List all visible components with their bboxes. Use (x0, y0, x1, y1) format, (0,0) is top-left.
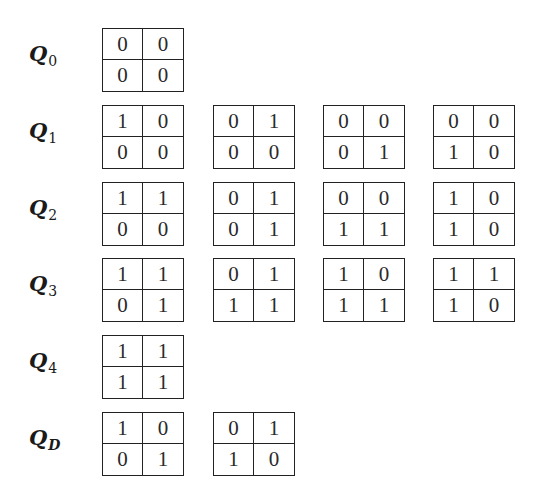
grid-cell: 0 (324, 106, 364, 137)
grid-cell: 1 (254, 183, 294, 214)
row-label: Q2 (29, 194, 57, 229)
row-label: QD (29, 424, 60, 459)
row-label-subscript: 4 (48, 360, 57, 376)
grid-cell: 0 (143, 413, 183, 444)
grid-cell: 0 (214, 413, 254, 444)
grid-cell: 0 (143, 29, 183, 60)
grid-cell: 1 (254, 413, 294, 444)
grid-cell: 0 (474, 183, 514, 214)
grid-cell: 1 (103, 336, 143, 367)
binary-grid: 0011 (323, 182, 405, 246)
row-q0: Q00000 (0, 28, 544, 94)
grid-cell: 0 (434, 106, 474, 137)
row-label-symbol: Q (29, 118, 47, 143)
grid-cell: 1 (103, 183, 143, 214)
grid-cell: 0 (103, 444, 143, 475)
grid-cell: 1 (103, 413, 143, 444)
binary-grid: 1010 (433, 182, 515, 246)
grid-cell: 0 (214, 259, 254, 290)
grid-cell: 1 (254, 290, 294, 321)
row-label-symbol: Q (29, 425, 47, 450)
grid-cell: 1 (254, 259, 294, 290)
grid-cell: 0 (214, 106, 254, 137)
binary-grid: 1110 (433, 258, 515, 322)
binary-grid: 0101 (213, 182, 295, 246)
row-label-subscript: 1 (48, 130, 57, 146)
grid-cell: 0 (103, 214, 143, 245)
row-label: Q0 (29, 40, 57, 75)
row-label-subscript: 2 (48, 207, 57, 223)
row-q4: Q41111 (0, 335, 544, 401)
grid-cell: 0 (143, 106, 183, 137)
grid-cell: 0 (103, 29, 143, 60)
grid-cell: 1 (434, 259, 474, 290)
grid-cell: 1 (364, 290, 404, 321)
grid-cell: 0 (143, 60, 183, 91)
grid-cell: 1 (254, 106, 294, 137)
grid-cell: 1 (143, 259, 183, 290)
grid-cell: 0 (364, 183, 404, 214)
binary-grid: 0111 (213, 258, 295, 322)
row-label-symbol: Q (29, 195, 47, 220)
grid-cell: 1 (143, 336, 183, 367)
grid-cell: 1 (324, 290, 364, 321)
grid-cell: 1 (434, 183, 474, 214)
row-label: Q1 (29, 117, 57, 152)
grid-cell: 1 (434, 290, 474, 321)
grid-cell: 1 (434, 137, 474, 168)
row-label-subscript: 3 (48, 283, 57, 299)
grid-cell: 1 (474, 259, 514, 290)
grid-cell: 0 (474, 137, 514, 168)
grid-cell: 0 (254, 137, 294, 168)
binary-grid: 1011 (323, 258, 405, 322)
grid-cell: 1 (103, 259, 143, 290)
grid-cell: 1 (364, 214, 404, 245)
binary-grid: 0001 (323, 105, 405, 169)
row-label-symbol: Q (29, 271, 47, 296)
grid-cell: 0 (214, 137, 254, 168)
row-qd: QD10010110 (0, 412, 544, 478)
row-label-symbol: Q (29, 348, 47, 373)
grid-cell: 0 (143, 214, 183, 245)
row-q3: Q31101011110111110 (0, 258, 544, 324)
grid-cell: 1 (324, 259, 364, 290)
binary-grid: 1111 (102, 335, 184, 399)
binary-grid: 1101 (102, 258, 184, 322)
row-label: Q4 (29, 347, 57, 382)
grid-cell: 0 (143, 137, 183, 168)
row-label-subscript: D (48, 437, 60, 453)
binary-grid: 1001 (102, 412, 184, 476)
binary-grid: 1100 (102, 182, 184, 246)
grid-cell: 1 (214, 290, 254, 321)
grid-cell: 1 (143, 290, 183, 321)
grid-cell: 0 (214, 183, 254, 214)
row-label-symbol: Q (29, 41, 47, 66)
grid-cell: 0 (324, 137, 364, 168)
grid-cell: 0 (364, 106, 404, 137)
binary-grid: 0100 (213, 105, 295, 169)
grid-cell: 1 (434, 214, 474, 245)
grid-cell: 1 (103, 367, 143, 398)
grid-cell: 1 (254, 214, 294, 245)
row-q2: Q21100010100111010 (0, 182, 544, 248)
grid-cell: 0 (324, 183, 364, 214)
binary-grid: 0110 (213, 412, 295, 476)
grid-cell: 0 (103, 137, 143, 168)
binary-grid: 0010 (433, 105, 515, 169)
grid-cell: 1 (214, 444, 254, 475)
binary-grid: 0000 (102, 28, 184, 92)
row-label: Q3 (29, 270, 57, 305)
grid-cell: 0 (474, 214, 514, 245)
grid-cell: 1 (364, 137, 404, 168)
row-label-subscript: 0 (48, 53, 57, 69)
row-q1: Q11000010000010010 (0, 105, 544, 171)
grid-cell: 0 (474, 290, 514, 321)
grid-cell: 1 (143, 367, 183, 398)
grid-cell: 0 (474, 106, 514, 137)
binary-grid: 1000 (102, 105, 184, 169)
grid-cell: 0 (364, 259, 404, 290)
grid-cell: 0 (214, 214, 254, 245)
grid-cell: 0 (254, 444, 294, 475)
grid-cell: 0 (103, 60, 143, 91)
grid-cell: 1 (143, 183, 183, 214)
